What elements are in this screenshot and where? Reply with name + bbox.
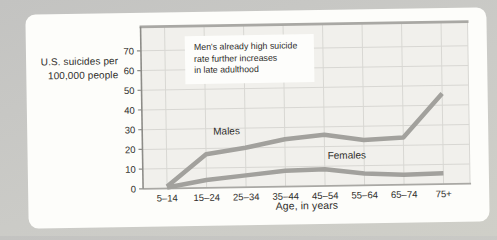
y-tick-label: 50 <box>124 85 135 96</box>
y-tick-label: 30 <box>125 124 136 135</box>
annotation-line1: Men's already high suicide <box>194 40 310 53</box>
y-axis-title-line1: U.S. suicides per <box>30 54 118 69</box>
y-tick-label: 20 <box>125 144 136 155</box>
y-axis-title-line2: 100,000 people <box>30 68 118 83</box>
y-axis-title: U.S. suicides per 100,000 people <box>30 54 118 82</box>
annotation-line3: in late adulthood <box>194 63 310 76</box>
y-tick-label: 0 <box>131 183 136 194</box>
annotation-box: Men's already high suicide rate further … <box>185 34 315 84</box>
y-tick-label: 70 <box>123 45 134 56</box>
males-series-label: Males <box>213 125 240 136</box>
y-tick-label: 10 <box>125 164 136 175</box>
females-series-label: Females <box>328 149 367 161</box>
y-tick-label: 40 <box>124 105 135 116</box>
y-tick-label: 60 <box>124 65 135 76</box>
figure-card: 0102030405060705–1415–2425–3435–4445–545… <box>25 7 489 228</box>
